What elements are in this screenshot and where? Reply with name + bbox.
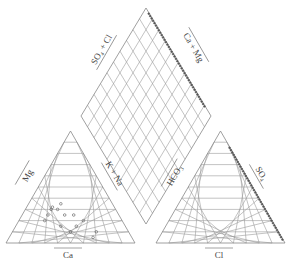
anion-triangle (156, 131, 285, 243)
svg-text:SO₄: SO₄ (254, 165, 270, 183)
label-cl: Cl (205, 248, 233, 260)
label-camg: Ca + Mg (179, 27, 209, 67)
label-ca: Ca (54, 248, 82, 260)
data-points (43, 13, 283, 241)
label-so4: SO₄ (249, 159, 273, 189)
svg-text:Cl: Cl (215, 250, 224, 260)
label-hco3: HCO₃ (161, 159, 187, 192)
svg-text:K + Na: K + Na (104, 159, 126, 187)
svg-text:Ca: Ca (63, 250, 73, 260)
svg-text:Mg: Mg (20, 167, 35, 183)
label-mg: Mg (15, 160, 39, 190)
piper-diagram: Mg K + Na Ca HCO₃ SO₄ Cl SO₄ + Cl Ca + M… (0, 0, 289, 263)
